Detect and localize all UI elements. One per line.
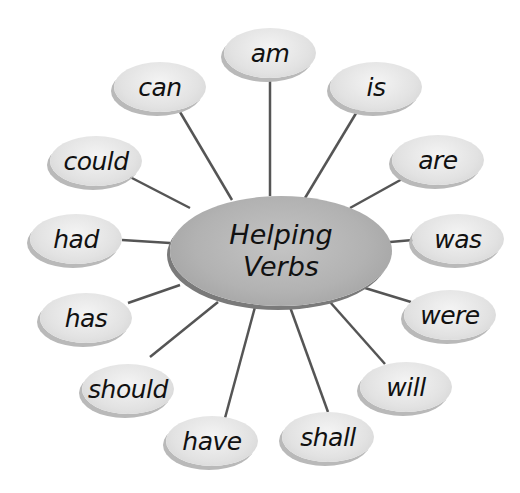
node-label: will: [386, 373, 425, 402]
node-had: had: [30, 214, 122, 264]
node-could: could: [50, 136, 142, 186]
node-label: had: [53, 225, 99, 254]
node-label: am: [251, 39, 290, 68]
node-label: were: [420, 301, 480, 330]
center-node-helping-verbs: Helping Verbs: [170, 196, 392, 306]
center-label-line2: Verbs: [243, 251, 319, 283]
node-has: has: [40, 293, 132, 343]
node-have: have: [166, 416, 258, 466]
node-can: can: [114, 62, 206, 112]
node-label: shall: [300, 423, 356, 452]
node-was: was: [412, 214, 504, 264]
node-is: is: [330, 62, 422, 112]
node-label: could: [63, 147, 128, 176]
node-will: will: [360, 362, 452, 412]
center-label-line1: Helping: [229, 219, 332, 251]
node-shall: shall: [282, 412, 374, 462]
node-label: should: [88, 375, 168, 404]
node-label: was: [434, 225, 481, 254]
node-label: is: [367, 73, 386, 102]
node-label: are: [418, 146, 457, 175]
node-label: has: [65, 304, 108, 333]
node-label: can: [138, 73, 181, 102]
node-are: are: [392, 135, 484, 185]
node-label: have: [182, 427, 241, 456]
node-am: am: [224, 28, 316, 78]
node-should: should: [82, 364, 174, 414]
node-were: were: [404, 290, 496, 340]
